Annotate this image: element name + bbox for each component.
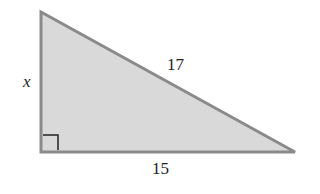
label-hypotenuse: 17 xyxy=(167,56,184,73)
label-base: 15 xyxy=(152,160,169,177)
right-triangle xyxy=(41,12,295,152)
label-x: x xyxy=(23,73,31,90)
